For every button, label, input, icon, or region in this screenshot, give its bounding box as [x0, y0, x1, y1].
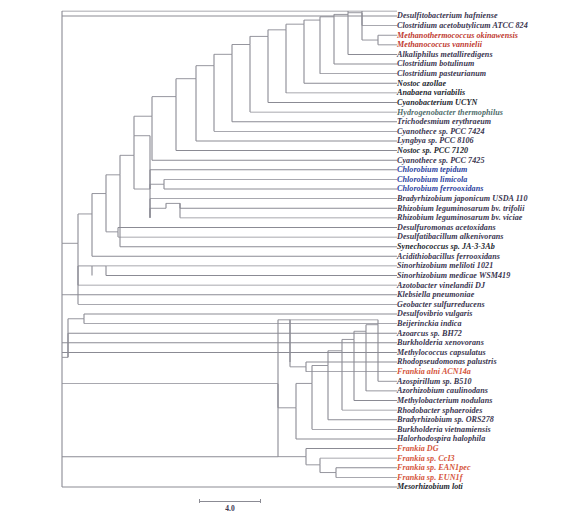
taxon-label: Azoarcus sp. BH72 [397, 329, 462, 338]
scale-bar-tick-right [260, 499, 261, 503]
taxon-label: Frankia sp. CcI3 [397, 454, 455, 463]
taxon-label: Nostoc sp. PCC 7120 [397, 146, 468, 155]
taxon-label: Frankia DG [397, 444, 439, 453]
taxon-label: Clostridium acetobutylicum ATCC 824 [397, 21, 528, 30]
taxon-label: Rhizobium leguminosarum bv. trifolii [397, 204, 524, 213]
taxon-label: Lyngbya sp. PCC 8106 [397, 136, 474, 145]
taxon-label: Rhodobacter sphaeroides [397, 406, 482, 415]
taxon-label-column: Desulfitobacterium hafnienseClostridium … [0, 0, 561, 523]
taxon-label: Anabaena variabilis [397, 88, 465, 97]
taxon-label: Bradyrhizobium japonicum USDA 110 [397, 194, 528, 203]
taxon-label: Trichodesmium erythraeum [397, 117, 491, 126]
taxon-label: Beijerinckia indica [397, 319, 462, 328]
taxon-label: Frankia alni ACN14a [397, 367, 471, 376]
taxon-label: Clostridium botulinum [397, 59, 474, 68]
taxon-label: Sinorhizobium medicae WSM419 [397, 271, 510, 280]
taxon-label: Burkholderia vietnamiensis [397, 425, 491, 434]
taxon-label: Synechococcus sp. JA-3-3Ab [397, 242, 495, 251]
taxon-label: Methylococcus capsulatus [397, 348, 486, 357]
taxon-label: Halorhodospira halophila [397, 434, 485, 443]
taxon-label: Methanothermococcus okinawensis [397, 31, 518, 40]
taxon-label: Chlorobium limicola [397, 175, 467, 184]
taxon-label: Chlorobium ferrooxidans [397, 184, 483, 193]
taxon-label: Sinorhizobium meliloti 1021 [397, 261, 493, 270]
taxon-label: Rhizobium leguminosarum bv. viciae [397, 213, 523, 222]
taxon-label: Clostridium pasteurianum [397, 69, 486, 78]
taxon-label: Cyanobacterium UCYN [397, 98, 477, 107]
taxon-label: Alkaliphilus metalliredigens [397, 50, 493, 59]
taxon-label: Methanococcus vannielii [397, 40, 482, 49]
taxon-label: Cyanothece sp. PCC 7424 [397, 127, 484, 136]
taxon-label: Chlorobium tepidum [397, 165, 467, 174]
taxon-label: Geobacter sulfurreducens [397, 300, 485, 309]
taxon-label: Desulfatibacillum alkenivorans [397, 232, 504, 241]
taxon-label: Acidithiobacillus ferrooxidans [397, 252, 500, 261]
taxon-label: Frankia sp. EUN1f [397, 473, 462, 482]
taxon-label: Klebsiella pneumoniae [397, 290, 474, 299]
scale-bar-label: 4.0 [199, 504, 261, 513]
taxon-label: Azorhizobium caulinodans [397, 386, 488, 395]
taxon-label: Azotobacter vinelandii DJ [397, 281, 485, 290]
taxon-label: Hydrogenobacter thermophilus [397, 108, 503, 117]
taxon-label: Azospirillum sp. B510 [397, 377, 472, 386]
taxon-label: Burkholderia xenovorans [397, 338, 484, 347]
taxon-label: Desulfitobacterium hafniense [397, 11, 498, 20]
taxon-label: Bradyrhizobium sp. ORS278 [397, 415, 494, 424]
phylogenetic-tree-figure: Desulfitobacterium hafnienseClostridium … [0, 0, 561, 523]
taxon-label: Nostoc azollae [397, 79, 446, 88]
scale-bar-tick-left [199, 499, 200, 503]
taxon-label: Cyanothece sp. PCC 7425 [397, 156, 484, 165]
taxon-label: Desulfuromonas acetoxidans [397, 223, 496, 232]
taxon-label: Desulfovibrio vulgaris [397, 309, 473, 318]
taxon-label: Methylobacterium nodulans [397, 396, 492, 405]
scale-bar-line [199, 501, 261, 502]
taxon-label: Rhodopseudomonas palustris [397, 357, 497, 366]
taxon-label: Frankia sp. EAN1pec [397, 463, 471, 472]
taxon-label: Mesorhizobium loti [397, 482, 463, 491]
